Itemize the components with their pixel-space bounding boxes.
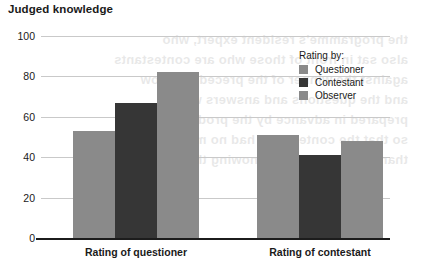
legend-entry: Contestant — [299, 77, 364, 88]
bar — [157, 72, 199, 238]
legend-label: Questioner — [315, 64, 364, 75]
bar — [299, 155, 341, 238]
bar — [115, 103, 157, 238]
y-axis-tick-label: 0 — [29, 232, 35, 244]
bar — [73, 131, 115, 238]
legend-label: Contestant — [315, 77, 363, 88]
legend-entries: QuestionerContestantObserver — [299, 64, 364, 101]
chart-title: Judged knowledge — [8, 3, 113, 15]
x-axis-line — [36, 238, 390, 240]
y-axis-tick-label: 100 — [17, 30, 35, 42]
legend-swatch — [299, 91, 308, 100]
bar — [257, 135, 299, 238]
chart-legend: Rating by: QuestionerContestantObserver — [299, 50, 364, 103]
gridline — [41, 36, 390, 37]
legend-label: Observer — [315, 90, 356, 101]
y-axis-tick-label: 80 — [23, 70, 35, 82]
legend-swatch — [299, 78, 308, 87]
x-axis-category-label: Rating of questioner — [85, 246, 187, 258]
legend-entry: Observer — [299, 90, 364, 101]
y-axis-tick-label: 20 — [23, 192, 35, 204]
legend-title: Rating by: — [299, 50, 364, 61]
y-axis-tick-label: 40 — [23, 151, 35, 163]
y-axis-tick-label: 60 — [23, 111, 35, 123]
legend-swatch — [299, 65, 308, 74]
x-axis-category-label: Rating of contestant — [269, 246, 371, 258]
bar — [341, 141, 383, 238]
gridline — [41, 117, 390, 118]
legend-entry: Questioner — [299, 64, 364, 75]
